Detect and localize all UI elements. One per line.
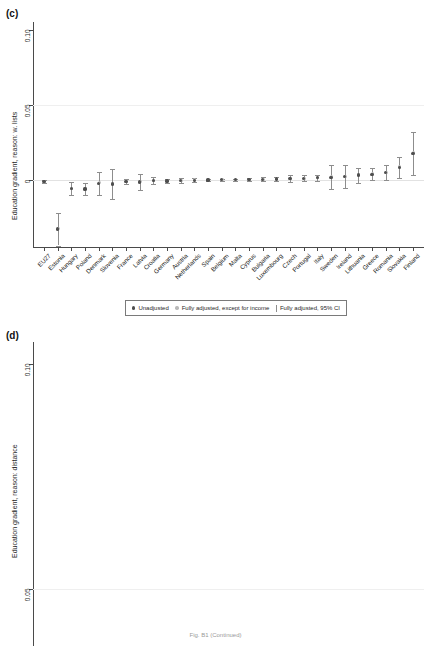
gridline-0-05 <box>33 589 424 590</box>
x-axis-tick <box>181 248 182 251</box>
data-point-unadjusted <box>329 176 332 179</box>
confidence-interval-cap-top <box>329 165 334 166</box>
confidence-interval-cap-bottom <box>302 181 307 182</box>
figure-caption: Fig. B1 (Continued) <box>0 632 431 638</box>
confidence-interval-cap-top <box>288 175 293 176</box>
x-axis-tick <box>208 248 209 251</box>
confidence-interval-cap-top <box>110 169 115 170</box>
y-axis-tick-label: 0.05 <box>24 588 31 608</box>
y-axis-tick-label: 0.10 <box>24 29 31 49</box>
data-point-unadjusted <box>370 173 373 176</box>
x-axis-tick <box>222 248 223 251</box>
confidence-interval-cap-top <box>370 168 375 169</box>
panel-c-letter: (c) <box>6 8 18 19</box>
x-axis-tick <box>58 248 59 251</box>
data-point-unadjusted <box>56 227 59 230</box>
data-point-unadjusted <box>398 166 401 169</box>
data-point-unadjusted <box>193 179 196 182</box>
x-axis-tick <box>331 248 332 251</box>
panel-c-y-axis-title: Education gradient, reason: w. lists <box>11 112 18 220</box>
y-axis-tick-label: 0 <box>24 179 31 199</box>
confidence-interval-cap-top <box>343 165 348 166</box>
x-axis-tick <box>140 248 141 251</box>
confidence-interval-cap-bottom <box>97 195 102 196</box>
x-axis-tick <box>71 248 72 251</box>
confidence-interval-cap-bottom <box>69 195 74 196</box>
confidence-interval-cap-top <box>56 213 61 214</box>
confidence-interval-cap-bottom <box>83 195 88 196</box>
x-axis-tick <box>386 248 387 251</box>
confidence-interval-cap-top <box>302 175 307 176</box>
confidence-interval-cap-bottom <box>288 182 293 183</box>
y-axis-tick-label: 0.10 <box>24 364 31 384</box>
x-axis-tick <box>372 248 373 251</box>
x-axis-tick <box>290 248 291 251</box>
x-axis-tick <box>99 248 100 251</box>
panel-d-y-axis-title: Education gradient, reason: distance <box>11 444 18 558</box>
data-point-unadjusted <box>288 177 291 180</box>
data-point-unadjusted <box>247 178 250 181</box>
x-axis-tick <box>358 248 359 251</box>
x-axis-tick <box>167 248 168 251</box>
confidence-interval-cap-bottom <box>110 199 115 200</box>
x-axis-tick <box>345 248 346 251</box>
confidence-interval-cap-top <box>138 174 143 175</box>
data-point-unadjusted <box>111 182 114 185</box>
confidence-interval-cap-bottom <box>315 181 320 182</box>
confidence-interval-cap-top <box>97 172 102 173</box>
confidence-interval-cap-bottom <box>165 183 170 184</box>
data-point-unadjusted <box>70 187 73 190</box>
confidence-interval-cap-bottom <box>370 180 375 181</box>
x-axis-tick <box>249 248 250 251</box>
x-axis-tick <box>235 248 236 251</box>
data-point-unadjusted <box>152 179 155 182</box>
x-axis-tick <box>126 248 127 251</box>
zero-reference-line <box>33 180 424 181</box>
confidence-interval-cap-top <box>356 168 361 169</box>
confidence-interval-cap-bottom <box>411 175 416 176</box>
confidence-interval-cap-bottom <box>138 190 143 191</box>
confidence-interval-cap-top <box>69 182 74 183</box>
data-point-unadjusted <box>275 177 278 180</box>
y-axis-line <box>33 22 34 247</box>
x-axis-tick <box>263 248 264 251</box>
confidence-interval-cap-top <box>411 132 416 133</box>
data-point-unadjusted <box>357 173 360 176</box>
data-point-unadjusted <box>124 180 127 183</box>
data-point-unadjusted <box>138 180 141 183</box>
x-axis-tick <box>304 248 305 251</box>
x-axis-tick <box>276 248 277 251</box>
confidence-interval-cap-bottom <box>274 181 279 182</box>
x-axis-tick <box>85 248 86 251</box>
x-axis-tick <box>44 248 45 251</box>
confidence-interval-cap-top <box>397 157 402 158</box>
data-point-unadjusted <box>42 180 45 183</box>
data-point-unadjusted <box>206 178 209 181</box>
confidence-interval-cap-bottom <box>329 189 334 190</box>
panel-c: (c) Education gradient, reason: w. lists… <box>0 0 431 320</box>
confidence-interval-cap-bottom <box>220 181 225 182</box>
confidence-interval-cap-bottom <box>56 246 61 247</box>
figure-panels-c-d: (c) Education gradient, reason: w. lists… <box>0 0 431 646</box>
confidence-interval-cap-bottom <box>192 182 197 183</box>
x-axis-tick <box>112 248 113 251</box>
x-axis-tick <box>153 248 154 251</box>
x-axis-tick <box>399 248 400 251</box>
confidence-interval-cap-bottom <box>179 183 184 184</box>
gridline-0-05 <box>33 105 424 106</box>
confidence-interval-cap-top <box>384 165 389 166</box>
data-point-unadjusted <box>411 152 414 155</box>
panel-d-letter: (d) <box>6 330 19 341</box>
confidence-interval-cap-bottom <box>261 181 266 182</box>
x-axis-tick <box>413 248 414 251</box>
confidence-interval-cap-bottom <box>124 184 129 185</box>
confidence-interval-cap-bottom <box>397 178 402 179</box>
confidence-interval-cap-bottom <box>343 188 348 189</box>
data-point-unadjusted <box>83 187 86 190</box>
x-axis-tick <box>194 248 195 251</box>
confidence-interval-cap-bottom <box>151 184 156 185</box>
confidence-interval-cap-bottom <box>356 183 361 184</box>
x-axis-tick <box>317 248 318 251</box>
data-point-unadjusted <box>97 182 100 185</box>
y-axis-line <box>33 342 34 646</box>
